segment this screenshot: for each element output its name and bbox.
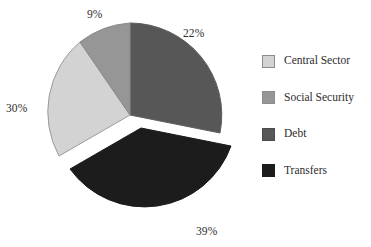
- legend-swatch-icon-central-sector: [262, 55, 275, 68]
- pie-label-central-sector: 30%: [6, 103, 27, 115]
- pie-chart-figure: 22% 39% 30% 9% Central Sector Social Sec…: [0, 0, 371, 247]
- legend-swatch-icon-transfers: [262, 164, 275, 177]
- pie-slice-debt[interactable]: [130, 23, 222, 133]
- legend-item-transfers[interactable]: Transfers: [262, 162, 371, 180]
- legend-label-debt: Debt: [284, 128, 306, 140]
- legend-label-social-security: Social Security: [284, 92, 354, 104]
- pie-plot-area: 22% 39% 30% 9%: [0, 0, 248, 247]
- chart-legend: Central Sector Social Security Debt Tran…: [262, 52, 371, 198]
- pie-slice-transfers-group: [70, 128, 231, 207]
- legend-item-debt[interactable]: Debt: [262, 125, 371, 143]
- pie-slice-transfers[interactable]: [70, 128, 231, 207]
- legend-swatch-icon-debt: [262, 128, 275, 141]
- pie-label-debt: 22%: [183, 28, 204, 40]
- legend-swatch-icon-social-security: [262, 91, 275, 104]
- pie-svg: [0, 0, 248, 247]
- pie-label-transfers: 39%: [196, 226, 217, 238]
- legend-item-central-sector[interactable]: Central Sector: [262, 52, 371, 70]
- legend-item-social-security[interactable]: Social Security: [262, 89, 371, 107]
- legend-label-central-sector: Central Sector: [284, 55, 350, 67]
- legend-label-transfers: Transfers: [284, 165, 327, 177]
- pie-label-social-security: 9%: [87, 9, 103, 21]
